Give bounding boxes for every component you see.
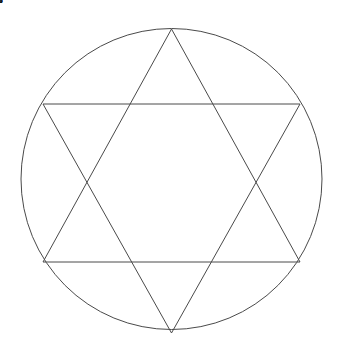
star-of-david-diagram: 6 5 4 7 3 2 [0, 0, 342, 363]
label-box-1[interactable]: 1 [0, 0, 3, 5]
diagram-canvas: 6 5 4 7 3 2 [0, 0, 342, 363]
outer-circle [21, 29, 322, 330]
label-box-1-text: 1 [0, 0, 3, 5]
downward-triangle [43, 104, 300, 333]
upward-triangle [43, 29, 300, 262]
numbered-boxes-group: 6 5 4 7 3 2 [0, 0, 3, 5]
